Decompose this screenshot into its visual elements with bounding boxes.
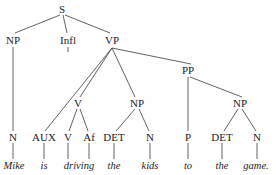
terminal-word-w_game: game. bbox=[243, 161, 268, 172]
terminal-word-w_is: is bbox=[40, 161, 47, 172]
tree-node-infl: Infl bbox=[60, 35, 76, 46]
tree-node-det2: DET bbox=[211, 132, 232, 143]
tree-edge-s-to-np1 bbox=[15, 15, 60, 33]
tree-node-v2: V bbox=[64, 132, 72, 143]
tree-node-s: S bbox=[59, 4, 65, 15]
terminal-word-w_driv: driving bbox=[64, 161, 94, 172]
tree-edge-vp-to-aux bbox=[45, 48, 112, 131]
tree-edge-vp-to-np2 bbox=[112, 48, 135, 97]
tree-node-np2: NP bbox=[130, 98, 144, 109]
tree-edge-v1-to-af bbox=[80, 109, 88, 131]
tree-node-pp: PP bbox=[182, 65, 194, 76]
syntax-tree-diagram: SNPInflVPPPVNPNPNAUXVAfDETNPDETNMikeisdr… bbox=[0, 0, 276, 175]
terminal-word-w_to: to bbox=[184, 161, 192, 172]
tree-node-np3: NP bbox=[233, 98, 247, 109]
terminal-word-w_mike: Mike bbox=[4, 161, 25, 172]
tree-node-np1: NP bbox=[6, 35, 20, 46]
tree-edge-np3-to-n3 bbox=[242, 109, 256, 131]
tree-edge-v1-to-v2 bbox=[69, 109, 77, 131]
terminal-word-w_the1: the bbox=[108, 161, 121, 172]
terminal-word-w_the2: the bbox=[216, 161, 229, 172]
tree-edge-np2-to-n2 bbox=[139, 109, 149, 131]
tree-edge-s-to-infl bbox=[63, 15, 67, 33]
tree-node-n2: N bbox=[146, 132, 154, 143]
terminal-word-w_kids: kids bbox=[142, 161, 159, 172]
tree-edge-vp-to-pp bbox=[112, 48, 191, 64]
tree-node-n1: N bbox=[9, 132, 17, 143]
tree-edge-np2-to-det1 bbox=[116, 109, 135, 131]
tree-edge-np3-to-det2 bbox=[224, 109, 238, 131]
tree-edge-s-to-vp bbox=[65, 15, 110, 33]
tree-edge-vp-to-v1 bbox=[80, 48, 112, 97]
tree-node-p: P bbox=[185, 132, 191, 143]
tree-node-aux: AUX bbox=[32, 132, 56, 143]
tree-node-det1: DET bbox=[103, 132, 124, 143]
tree-node-v1: V bbox=[74, 98, 82, 109]
tree-node-af: Af bbox=[83, 132, 95, 143]
tree-node-n3: N bbox=[253, 132, 261, 143]
tree-node-vp: VP bbox=[105, 35, 119, 46]
tree-edge-pp-to-np3 bbox=[190, 77, 242, 97]
tree-edges-layer bbox=[0, 0, 276, 175]
